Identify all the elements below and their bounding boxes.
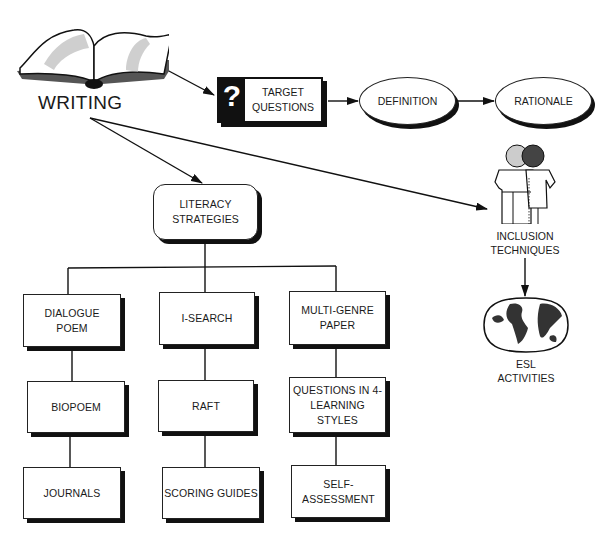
dialogue-poem-label: DIALOGUE POEM xyxy=(44,306,99,336)
self-assessment-label: SELF- ASSESSMENT xyxy=(302,477,375,507)
inclusion-techniques-label: INCLUSION TECHNIQUES xyxy=(480,229,570,257)
esl-activities-label: ESL ACTIVITIES xyxy=(480,357,572,385)
scoring-guides-node[interactable]: SCORING GUIDES xyxy=(162,467,260,519)
journals-label: JOURNALS xyxy=(44,486,101,501)
biopoem-node[interactable]: BIOPOEM xyxy=(27,381,125,433)
target-questions-label: TARGET QUESTIONS xyxy=(245,79,321,121)
rationale-label: RATIONALE xyxy=(514,95,573,107)
self-assessment-node[interactable]: SELF- ASSESSMENT xyxy=(291,465,386,518)
dialogue-poem-node[interactable]: DIALOGUE POEM xyxy=(23,294,121,347)
biopoem-label: BIOPOEM xyxy=(51,400,101,415)
questions-learning-styles-node[interactable]: QUESTIONS IN 4- LEARNING STYLES xyxy=(289,377,386,433)
literacy-strategies-label: LITERACY STRATEGIES xyxy=(172,197,239,227)
rationale-node[interactable]: RATIONALE xyxy=(495,77,592,125)
journals-node[interactable]: JOURNALS xyxy=(23,467,121,519)
open-book-icon xyxy=(14,24,169,90)
raft-label: RAFT xyxy=(192,399,220,414)
definition-node[interactable]: DEFINITION xyxy=(359,77,456,125)
definition-label: DEFINITION xyxy=(378,95,438,107)
scoring-guides-label: SCORING GUIDES xyxy=(164,486,258,501)
i-search-label: I-SEARCH xyxy=(182,311,233,326)
target-questions-node[interactable]: ? TARGET QUESTIONS xyxy=(217,77,323,123)
two-people-icon xyxy=(489,142,561,224)
i-search-node[interactable]: I-SEARCH xyxy=(159,292,255,345)
questions-learning-styles-label: QUESTIONS IN 4- LEARNING STYLES xyxy=(293,383,382,428)
raft-node[interactable]: RAFT xyxy=(158,380,254,432)
multi-genre-paper-node[interactable]: MULTI-GENRE PAPER xyxy=(289,291,386,345)
literacy-strategies-node[interactable]: LITERACY STRATEGIES xyxy=(153,184,258,240)
world-map-icon xyxy=(480,296,572,354)
multi-genre-paper-label: MULTI-GENRE PAPER xyxy=(301,303,374,333)
question-mark-icon: ? xyxy=(219,79,245,121)
writing-root-label: WRITING xyxy=(38,92,122,114)
